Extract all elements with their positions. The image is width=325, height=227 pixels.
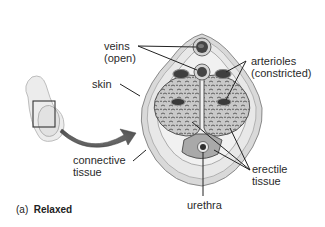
label-erectile-line1: erectile bbox=[252, 163, 287, 175]
deep-vein bbox=[194, 64, 210, 80]
label-veins-line2: (open) bbox=[104, 52, 136, 64]
label-erectile-tissue: erectile tissue bbox=[252, 163, 287, 187]
caption-letter: (a) bbox=[16, 204, 28, 215]
caption-text: Relaxed bbox=[34, 204, 72, 215]
label-veins-line1: veins bbox=[104, 40, 136, 52]
diagram-figure: veins (open) skin arterioles (constricte… bbox=[0, 0, 325, 227]
label-connective-line2: tissue bbox=[73, 166, 126, 178]
penis-overview-icon bbox=[26, 76, 64, 141]
cross-section-illustration bbox=[0, 0, 325, 227]
arteriole-central-right bbox=[217, 99, 231, 106]
label-skin: skin bbox=[92, 78, 112, 90]
figure-caption: (a) Relaxed bbox=[16, 204, 72, 215]
urethra-opening bbox=[198, 142, 209, 153]
label-arterioles: arterioles (constricted) bbox=[251, 55, 312, 79]
label-veins: veins (open) bbox=[104, 40, 136, 64]
label-connective-tissue: connective tissue bbox=[73, 154, 126, 178]
arteriole-central-left bbox=[171, 99, 185, 106]
label-connective-line1: connective bbox=[73, 154, 126, 166]
label-erectile-line2: tissue bbox=[252, 175, 287, 187]
arteriole-upper-left bbox=[173, 70, 189, 79]
curved-arrow-icon bbox=[60, 129, 136, 147]
label-arterioles-line2: (constricted) bbox=[251, 67, 312, 79]
label-urethra: urethra bbox=[187, 199, 222, 211]
label-arterioles-line1: arterioles bbox=[251, 55, 312, 67]
